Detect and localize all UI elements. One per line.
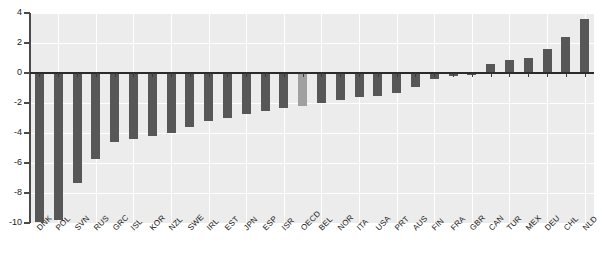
bar-chart: 420-2-4-6-8-10 DNKPOLSVNRUSGRCISLKORNZLS… <box>0 0 602 259</box>
x-tick <box>303 73 304 77</box>
x-tick <box>566 73 567 77</box>
bar-nzl <box>167 73 176 133</box>
y-tick-label: -4 <box>0 128 22 137</box>
y-tick-label: -10 <box>0 218 22 227</box>
bar-bel <box>317 73 326 103</box>
bar-grc <box>110 73 119 142</box>
gridline-vertical <box>472 13 473 223</box>
bar-pol <box>54 73 63 220</box>
x-tick <box>509 73 510 77</box>
bar-chl <box>561 37 570 73</box>
x-tick <box>152 73 153 77</box>
y-tick <box>24 12 30 14</box>
y-tick <box>24 132 30 134</box>
bar-jpn <box>242 73 251 114</box>
bar-deu <box>543 49 552 73</box>
x-tick <box>453 73 454 77</box>
x-tick <box>227 73 228 77</box>
gridline-vertical <box>434 13 435 223</box>
x-tick <box>190 73 191 77</box>
bar-kor <box>148 73 157 136</box>
bar-nor <box>336 73 345 100</box>
bar-svn <box>73 73 82 183</box>
gridline-vertical <box>321 13 322 223</box>
x-tick <box>77 73 78 77</box>
bar-isl <box>129 73 138 139</box>
x-tick <box>209 73 210 77</box>
x-tick <box>39 73 40 77</box>
bar-oecd <box>298 73 307 106</box>
x-tick <box>321 73 322 77</box>
x-tick <box>528 73 529 77</box>
bar-swe <box>185 73 194 127</box>
x-tick <box>133 73 134 77</box>
y-tick <box>24 162 30 164</box>
y-tick-label: 0 <box>0 68 22 77</box>
x-tick <box>585 73 586 77</box>
gridline-vertical <box>397 13 398 223</box>
bar-nld <box>580 19 589 73</box>
x-tick <box>359 73 360 77</box>
bar-tur <box>505 60 514 74</box>
y-tick-label: -6 <box>0 158 22 167</box>
gridline-vertical <box>359 13 360 223</box>
bar-esp <box>261 73 270 111</box>
y-tick <box>24 42 30 44</box>
x-tick <box>58 73 59 77</box>
x-tick <box>491 73 492 77</box>
y-tick <box>24 222 30 224</box>
y-tick-label: -8 <box>0 188 22 197</box>
bar-est <box>223 73 232 118</box>
x-tick <box>115 73 116 77</box>
y-tick <box>24 102 30 104</box>
gridline-vertical <box>547 13 548 223</box>
bar-isr <box>279 73 288 108</box>
x-tick <box>340 73 341 77</box>
y-tick <box>24 192 30 194</box>
bar-dnk <box>35 73 44 222</box>
bar-rus <box>91 73 100 159</box>
x-tick <box>397 73 398 77</box>
bar-irl <box>204 73 213 121</box>
y-tick-label: -2 <box>0 98 22 107</box>
y-tick-label: 2 <box>0 38 22 47</box>
x-tick <box>284 73 285 77</box>
x-tick <box>246 73 247 77</box>
gridline-vertical <box>284 13 285 223</box>
gridline-vertical <box>509 13 510 223</box>
y-tick-label: 4 <box>0 8 22 17</box>
gridline-vertical <box>246 13 247 223</box>
x-tick <box>171 73 172 77</box>
x-tick <box>434 73 435 77</box>
x-tick <box>472 73 473 77</box>
x-tick <box>547 73 548 77</box>
x-tick <box>96 73 97 77</box>
x-tick <box>265 73 266 77</box>
bar-mex <box>524 58 533 73</box>
x-tick <box>415 73 416 77</box>
x-tick <box>378 73 379 77</box>
